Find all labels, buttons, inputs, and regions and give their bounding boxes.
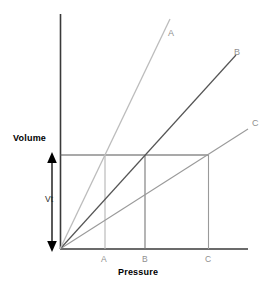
series-label-a: A [168,29,174,38]
series-label-c: C [252,119,259,128]
x-tick-label-a: A [101,255,107,264]
y-axis-title: Volume [13,134,46,143]
series-label-b: B [234,48,240,57]
x-axis-title: Pressure [118,268,158,277]
plot-area [0,0,272,289]
x-tick-label-c: C [205,255,211,264]
vt-label: Vt [45,195,53,204]
x-tick-label-b: B [142,255,148,264]
series-line-b [60,55,236,249]
compliance-curve-figure: Volume Pressure Vt A B C A B C [0,0,272,289]
